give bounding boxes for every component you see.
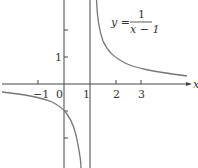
x-tick-label: 2 (113, 88, 120, 101)
equation-lhs: y = (110, 16, 130, 29)
equation-denominator: x − 1 (130, 23, 159, 36)
x-tick-label: 3 (138, 88, 145, 101)
x-tick-label: 1 (83, 88, 90, 101)
chart: −1 0 1 2 3 1 x y = 1 x − 1 (0, 0, 198, 168)
equation-numerator: 1 (138, 8, 145, 21)
x-axis-label: x (193, 78, 198, 91)
curve-left-branch (2, 92, 81, 168)
x-axis-arrow-icon (186, 82, 192, 86)
x-tick-label: 0 (56, 88, 63, 101)
y-tick-label: 1 (55, 51, 62, 64)
